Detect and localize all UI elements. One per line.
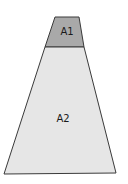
label-a1: A1: [60, 26, 73, 37]
trapezoid-diagram: A1 A2: [0, 0, 128, 184]
region-a2: [4, 47, 116, 174]
label-a2: A2: [56, 113, 69, 124]
